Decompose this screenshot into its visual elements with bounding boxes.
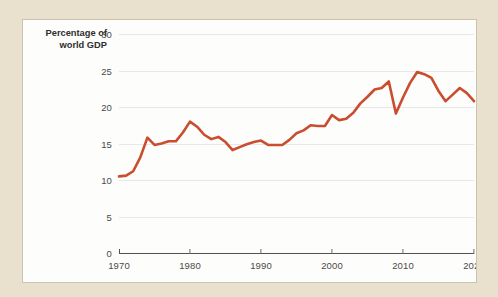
- y-tick-label-15: 15: [101, 138, 112, 149]
- x-tick-label-1990: 1990: [250, 260, 272, 271]
- y-tick-label-25: 25: [101, 65, 112, 76]
- y-tick-label-5: 5: [107, 211, 112, 222]
- y-tick-label-0: 0: [107, 248, 112, 259]
- x-tick-label-1980: 1980: [179, 260, 201, 271]
- chart-panel: Percentage of world GDP 051015202530 197…: [22, 19, 477, 283]
- y-axis-title-line-2: world GDP: [59, 40, 107, 50]
- plot-area: 051015202530 197019801990200020102020: [119, 34, 474, 253]
- series-line-percentage-of-world-gdp: [119, 72, 474, 176]
- x-tick-label-1970: 1970: [108, 260, 130, 271]
- x-tick-label-2020: 2020: [463, 260, 477, 271]
- x-tick-label-2000: 2000: [321, 260, 343, 271]
- y-axis-title: Percentage of world GDP: [31, 28, 107, 51]
- y-tick-label-10: 10: [101, 175, 112, 186]
- line-series-svg: [119, 34, 474, 253]
- y-tick-label-20: 20: [101, 102, 112, 113]
- x-tick-label-2010: 2010: [392, 260, 414, 271]
- y-axis-title-line-1: Percentage of: [46, 28, 107, 38]
